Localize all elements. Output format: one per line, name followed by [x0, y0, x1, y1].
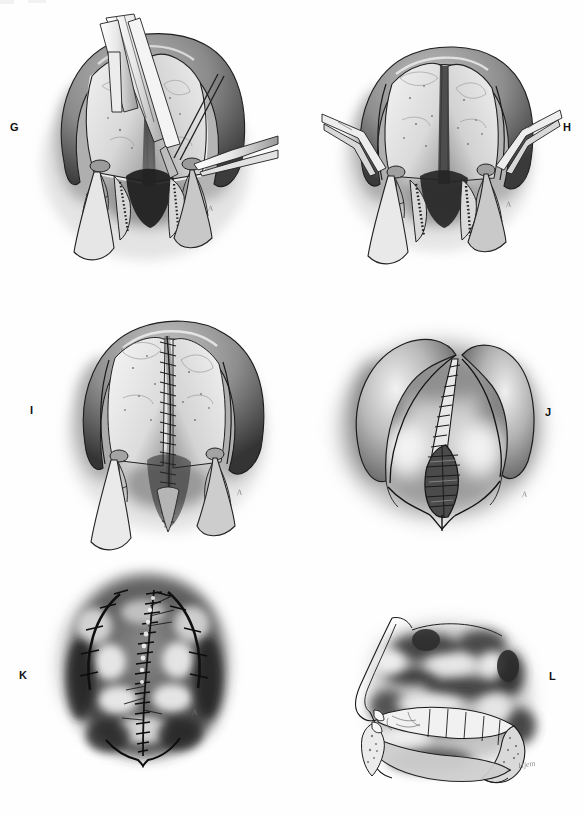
panel-i: A — [55, 310, 285, 560]
panel-label-h: H — [563, 122, 571, 133]
posterior-pharyngeal-mass — [497, 650, 519, 682]
artist-signature: A — [207, 204, 213, 214]
panel-g: A — [28, 14, 278, 276]
panel-k: A — [50, 568, 240, 768]
panel-label-i: I — [30, 405, 33, 416]
panel-label-j: J — [545, 407, 551, 418]
artist-signature: A — [236, 488, 242, 498]
panel-j: A — [330, 325, 560, 540]
scan-artifact — [28, 0, 46, 3]
panel-h: A — [330, 28, 555, 273]
artist-signature: A — [505, 200, 511, 210]
illustration-plate: A G — [0, 0, 585, 815]
panel-label-g: G — [10, 122, 19, 133]
denuded-bone-left — [108, 337, 165, 466]
panel-label-k: K — [19, 670, 27, 681]
artist-signature: A — [521, 490, 527, 500]
adenoid-pad — [412, 629, 440, 651]
scan-artifact — [0, 0, 14, 4]
panel-l: Hjem — [330, 604, 545, 789]
pedicle-hub-left — [90, 160, 110, 172]
panel-label-l: L — [549, 671, 556, 682]
artist-signature: A — [191, 708, 197, 718]
midline-cleft — [438, 66, 450, 184]
